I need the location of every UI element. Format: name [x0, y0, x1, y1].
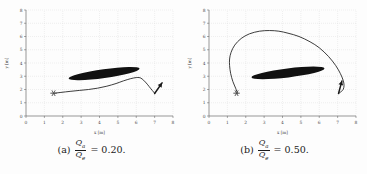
y-tick-label: 4: [20, 61, 23, 66]
x-tick-label: 7: [336, 120, 339, 125]
x-tick-label: 2: [244, 120, 247, 125]
x-tick-label: 0: [25, 120, 28, 125]
x-tick-label: 5: [299, 120, 302, 125]
y-axis-label: y [m]: [4, 57, 9, 69]
x-tick-label: 8: [172, 120, 175, 125]
y-tick-label: 5: [203, 47, 206, 52]
trajectory-path: [54, 77, 154, 93]
caption-tag-a: (a): [57, 145, 70, 155]
y-tick-label: 7: [20, 21, 23, 26]
y-tick-label: 6: [203, 34, 206, 39]
y-tick-label: 3: [203, 74, 206, 79]
x-tick-label: 1: [43, 120, 46, 125]
x-tick-label: 1: [226, 120, 229, 125]
x-tick-label: 4: [98, 120, 101, 125]
subfigure-b: 012345678012345678x [m]y [m] (b) Qa Qe =…: [183, 0, 366, 174]
x-tick-label: 4: [281, 120, 284, 125]
x-axis-label: x [m]: [277, 130, 288, 135]
y-tick-label: 3: [20, 74, 23, 79]
caption-fraction-a: Qa Qe: [75, 139, 87, 161]
y-tick-label: 2: [203, 87, 206, 92]
figure-row: 012345678012345678x [m]y [m] (a) Qa Qe =…: [0, 0, 367, 174]
chart-svg-b: 012345678012345678x [m]y [m]: [183, 0, 366, 140]
y-tick-label: 4: [203, 61, 206, 66]
y-tick-label: 7: [203, 21, 206, 26]
y-tick-label: 6: [20, 34, 23, 39]
caption-tag-b: (b): [240, 145, 254, 155]
x-tick-label: 8: [355, 120, 358, 125]
x-tick-label: 3: [80, 120, 83, 125]
y-tick-label: 8: [203, 8, 206, 13]
x-tick-label: 6: [135, 120, 138, 125]
y-tick-label: 8: [20, 8, 23, 13]
y-tick-label: 1: [20, 100, 23, 105]
caption-value-a: 0.20.: [101, 145, 125, 155]
caption-fraction-b: Qa Qe: [258, 139, 270, 161]
plot-a: 012345678012345678x [m]y [m]: [0, 0, 183, 140]
trajectory-path: [229, 31, 344, 94]
caption-b: (b) Qa Qe = 0.50.: [183, 139, 366, 161]
y-tick-label: 1: [203, 100, 206, 105]
x-tick-label: 5: [116, 120, 119, 125]
ellipse-obstacle: [251, 64, 325, 82]
fraction-numerator-b: Qa: [258, 139, 270, 149]
fraction-denominator-b: Qe: [258, 151, 270, 161]
y-axis-label: y [m]: [187, 57, 192, 69]
fraction-denominator-a: Qe: [75, 151, 87, 161]
fraction-numerator-a: Qa: [75, 139, 87, 149]
caption-equals-b: =: [274, 145, 282, 155]
caption-value-b: 0.50.: [285, 145, 309, 155]
caption-a: (a) Qa Qe = 0.20.: [0, 139, 183, 161]
x-tick-label: 0: [208, 120, 211, 125]
y-tick-label: 0: [20, 114, 23, 119]
subfigure-a: 012345678012345678x [m]y [m] (a) Qa Qe =…: [0, 0, 183, 174]
y-tick-label: 2: [20, 87, 23, 92]
caption-equals-a: =: [90, 145, 98, 155]
x-tick-label: 2: [61, 120, 64, 125]
x-axis-label: x [m]: [94, 130, 105, 135]
end-arrow: [155, 83, 162, 94]
start-asterisk: [50, 90, 56, 96]
y-tick-label: 0: [203, 114, 206, 119]
plot-b: 012345678012345678x [m]y [m]: [183, 0, 366, 140]
x-tick-label: 3: [263, 120, 266, 125]
ellipse-obstacle: [68, 64, 140, 83]
y-tick-label: 5: [20, 47, 23, 52]
x-tick-label: 6: [318, 120, 321, 125]
chart-svg-a: 012345678012345678x [m]y [m]: [0, 0, 183, 140]
x-tick-label: 7: [153, 120, 156, 125]
